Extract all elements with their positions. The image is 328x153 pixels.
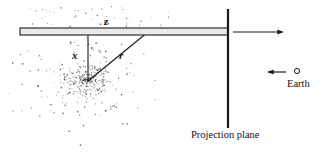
label-z: z xyxy=(104,16,108,27)
r-distance-line xyxy=(88,32,148,81)
label-r: r xyxy=(119,50,123,61)
galaxy-point-cluster xyxy=(8,6,169,146)
projection-plane-figure: z x r Earth Projection plane xyxy=(0,0,328,153)
figure-canvas xyxy=(0,0,328,153)
label-projection-plane: Projection plane xyxy=(191,130,260,141)
label-earth: Earth xyxy=(287,79,310,90)
earth-circle-marker xyxy=(294,68,299,73)
label-x: x xyxy=(72,50,78,61)
projection-slab-bar xyxy=(20,28,228,35)
